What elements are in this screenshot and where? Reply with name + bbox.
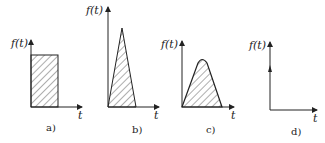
panel-b: f(t) t b) <box>85 4 159 135</box>
panel-c: f(t) t c) <box>160 38 236 135</box>
panel-caption: d) <box>291 126 301 137</box>
y-axis-label: f(t) <box>85 4 103 17</box>
y-axis-label: f(t) <box>160 38 178 51</box>
panel-caption: a) <box>46 122 56 133</box>
rounded-triangular-pulse <box>182 60 222 108</box>
triangular-pulse <box>108 28 136 107</box>
x-axis-label: t <box>78 109 83 122</box>
x-axis-label: t <box>313 112 318 125</box>
panel-caption: b) <box>132 124 142 135</box>
impulse-arrow-icon <box>268 65 272 72</box>
panel-a: f(t) t a) <box>10 37 83 133</box>
x-axis-label: t <box>231 109 236 122</box>
panel-caption: c) <box>206 124 216 135</box>
y-axis-label: f(t) <box>10 37 28 50</box>
panel-d: f(t) t d) <box>248 39 318 137</box>
y-axis-label: f(t) <box>248 39 266 52</box>
rectangular-pulse <box>31 55 58 107</box>
pulse-shapes-diagram: f(t) t a) f(t) t b) f(t) t c) f(t) t d) <box>0 0 325 143</box>
x-axis-label: t <box>154 109 159 122</box>
